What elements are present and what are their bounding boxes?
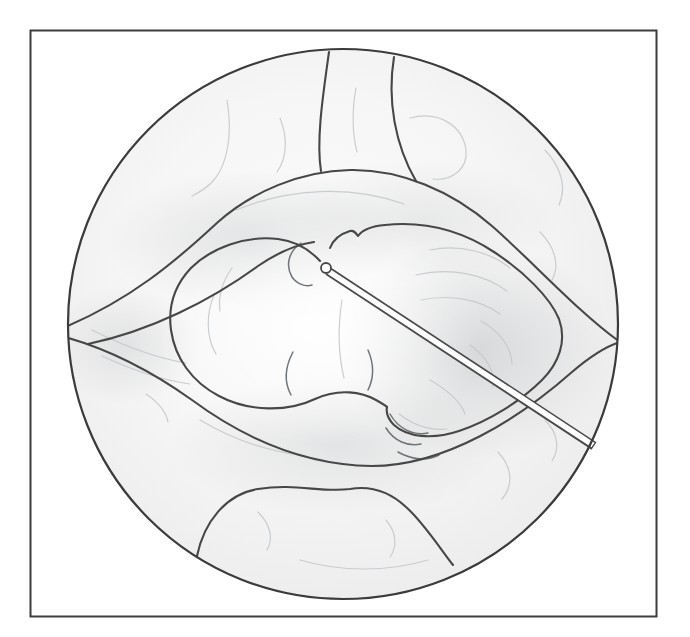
needle-tip: [321, 263, 331, 273]
endoscopic-view-illustration: [0, 0, 690, 637]
illustration-page: [0, 0, 690, 637]
medical-figure: [0, 0, 690, 637]
